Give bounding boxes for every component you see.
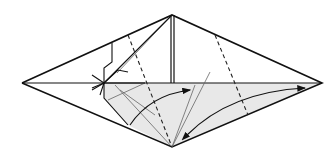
vertical-double-line	[171, 15, 174, 83]
diagram-canvas	[0, 0, 334, 162]
origami-diagram	[0, 0, 334, 162]
shaded-flap	[104, 83, 322, 147]
